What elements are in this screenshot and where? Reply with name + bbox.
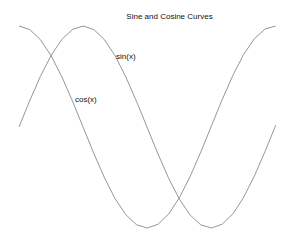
cos-label: cos(x)	[75, 95, 97, 104]
chart-area: Sine and Cosine Curves sin(x) cos(x)	[0, 0, 291, 243]
sin-label: sin(x)	[116, 52, 136, 61]
plot-svg	[0, 0, 291, 243]
sin-curve	[19, 26, 276, 228]
chart-title: Sine and Cosine Curves	[0, 12, 291, 21]
